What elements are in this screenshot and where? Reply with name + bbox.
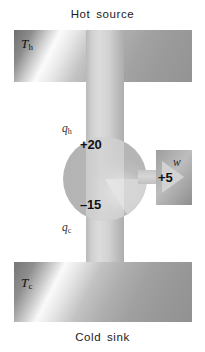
heat-out-subscript: c (68, 226, 72, 235)
heat-out-value: –15 (80, 197, 101, 212)
heat-engine-circle (63, 137, 147, 221)
heat-engine-diagram: Hot source Th +5 w qh +20 –15 qc Tc Cold… (0, 0, 205, 352)
heat-out-label: qc (62, 221, 71, 235)
work-value: +5 (158, 170, 172, 185)
cold-temperature-subscript: c (29, 281, 33, 291)
cold-temperature-symbol: T (21, 275, 28, 290)
hot-temperature-symbol: T (21, 36, 28, 51)
hot-temperature-label: Th (21, 36, 33, 52)
work-symbol-label: w (173, 156, 181, 168)
heat-in-label: qh (62, 122, 72, 136)
heat-in-value: +20 (80, 137, 101, 152)
hot-source-caption: Hot source (0, 8, 205, 20)
hot-temperature-subscript: h (29, 42, 34, 52)
heat-in-subscript: h (68, 127, 72, 136)
cold-temperature-label: Tc (21, 275, 33, 291)
cold-sink-block (14, 262, 192, 322)
cold-sink-caption: Cold sink (0, 331, 205, 343)
